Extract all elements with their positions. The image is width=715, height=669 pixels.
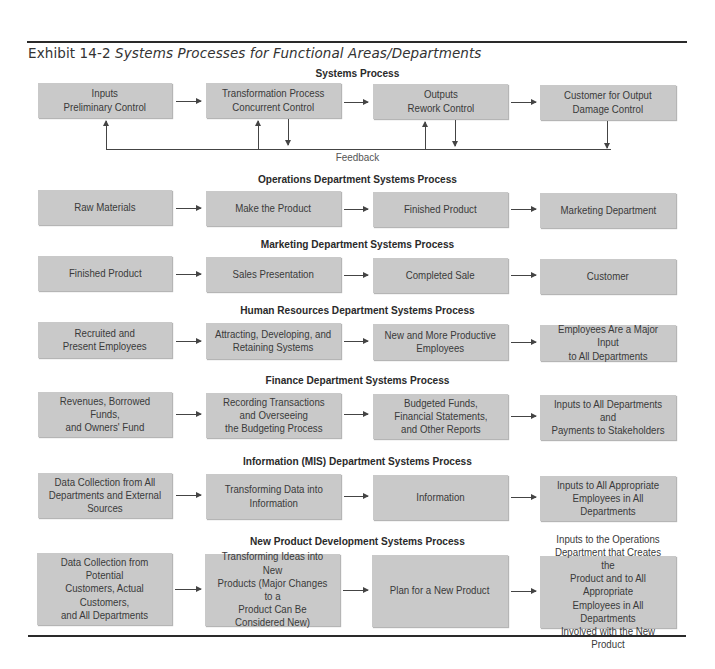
box-label: Inputs to All Appropriate Employees in A… xyxy=(548,479,668,519)
box-sales-presentation: Sales Presentation xyxy=(206,257,341,292)
feedback-arrow-down-transformation xyxy=(288,119,289,145)
box-label: Finished Product xyxy=(69,267,142,280)
flow-arrow xyxy=(511,591,536,592)
feedback-arrow-down-outputs xyxy=(455,120,456,146)
flow-arrow xyxy=(343,590,368,591)
box-label: Raw Materials xyxy=(74,201,135,214)
flow-arrow xyxy=(344,275,368,276)
box-employees-major-input: Employees Are a Major Input to All Depar… xyxy=(540,325,676,361)
box-label: Information xyxy=(416,491,464,504)
bottom-rule xyxy=(28,635,686,637)
section-title-systems-process: Systems Process xyxy=(43,67,672,79)
flow-arrow xyxy=(344,102,368,103)
box-label: Sales Presentation xyxy=(233,268,314,281)
flow-arrow xyxy=(176,341,201,342)
feedback-arrow-up-outputs xyxy=(425,122,426,149)
box-label: Inputs Preliminary Control xyxy=(64,87,146,113)
exhibit-caption: Systems Processes for Functional Areas/D… xyxy=(115,45,482,61)
box-completed-sale: Completed Sale xyxy=(373,258,508,293)
box-marketing-department: Marketing Department xyxy=(540,193,676,228)
box-transformation: Transformation Process Concurrent Contro… xyxy=(206,83,341,118)
feedback-arrow-up-inputs xyxy=(106,121,107,149)
flow-arrow xyxy=(511,497,536,498)
feedback-line xyxy=(106,149,611,150)
box-label: Recruited and Present Employees xyxy=(63,327,147,353)
flow-arrow xyxy=(176,495,201,496)
box-make-product: Make the Product xyxy=(206,191,341,226)
flow-arrow xyxy=(511,209,536,210)
box-label: Inputs to the Operations Department that… xyxy=(548,533,668,652)
exhibit-number: Exhibit 14-2 xyxy=(28,45,111,61)
box-customer-output: Customer for Output Damage Control xyxy=(540,85,676,120)
section-title-marketing: Marketing Department Systems Process xyxy=(43,238,672,250)
box-label: Marketing Department xyxy=(560,204,656,217)
box-information: Information xyxy=(373,475,508,520)
box-label: Recording Transactions and Overseeing th… xyxy=(223,396,325,436)
box-label: Employees Are a Major Input to All Depar… xyxy=(548,323,668,363)
box-productive-employees: New and More Productive Employees xyxy=(373,324,508,360)
feedback-arrow-up-transformation xyxy=(258,121,259,149)
box-recording-transactions: Recording Transactions and Overseeing th… xyxy=(206,393,341,438)
flow-arrow xyxy=(344,496,368,497)
box-label: Completed Sale xyxy=(406,269,475,282)
box-label: Finished Product xyxy=(404,203,477,216)
box-label: Revenues, Borrowed Funds, and Owners' Fu… xyxy=(46,395,164,435)
box-outputs: Outputs Rework Control xyxy=(373,84,508,119)
box-label: Plan for a New Product xyxy=(390,584,490,597)
box-inputs-appropriate-employees: Inputs to All Appropriate Employees in A… xyxy=(540,476,676,521)
box-label: Customer for Output Damage Control xyxy=(564,89,652,115)
box-finished-product-input: Finished Product xyxy=(38,256,172,291)
box-transforming-ideas: Transforming Ideas into New Products (Ma… xyxy=(205,554,340,626)
section-title-finance: Finance Department Systems Process xyxy=(43,374,672,386)
box-inputs: Inputs Preliminary Control xyxy=(38,83,172,118)
flow-arrow xyxy=(176,101,201,102)
box-label: Make the Product xyxy=(236,202,312,215)
box-data-collection-all: Data Collection from All Departments and… xyxy=(38,473,172,518)
flow-arrow xyxy=(176,274,201,275)
flow-arrow xyxy=(511,275,536,276)
box-inputs-payments: Inputs to All Departments and Payments t… xyxy=(540,395,676,440)
box-label: Data Collection from Potential Customers… xyxy=(45,556,164,622)
box-recruited-employees: Recruited and Present Employees xyxy=(38,322,172,358)
box-label: Outputs Rework Control xyxy=(407,88,474,114)
flow-arrow xyxy=(344,414,368,415)
section-title-information-mis: Information (MIS) Department Systems Pro… xyxy=(43,455,672,467)
flow-arrow xyxy=(511,102,536,103)
flow-arrow xyxy=(511,342,536,343)
flow-arrow xyxy=(176,208,201,209)
box-attracting-developing: Attracting, Developing, and Retaining Sy… xyxy=(206,323,341,359)
exhibit-title: Exhibit 14-2 Systems Processes for Funct… xyxy=(28,45,481,61)
box-revenues-funds: Revenues, Borrowed Funds, and Owners' Fu… xyxy=(38,392,172,437)
box-finished-product: Finished Product xyxy=(373,192,508,227)
box-plan-new-product: Plan for a New Product xyxy=(372,555,508,627)
box-label: Transformation Process Concurrent Contro… xyxy=(222,87,324,113)
section-title-human-resources: Human Resources Department Systems Proce… xyxy=(43,304,672,316)
flow-arrow xyxy=(511,416,536,417)
section-title-operations: Operations Department Systems Process xyxy=(43,173,672,185)
box-raw-materials: Raw Materials xyxy=(38,190,172,225)
flow-arrow xyxy=(176,414,201,415)
box-label: Inputs to All Departments and Payments t… xyxy=(548,398,668,438)
box-customer: Customer xyxy=(540,259,676,294)
box-label: Customer xyxy=(587,270,629,283)
box-label: Transforming Data into Information xyxy=(224,483,322,509)
feedback-label: Feedback xyxy=(36,151,680,163)
box-inputs-operations: Inputs to the Operations Department that… xyxy=(540,556,676,628)
flow-arrow xyxy=(175,589,201,590)
flow-arrow xyxy=(344,341,368,342)
box-budgeted-funds: Budgeted Funds, Financial Statements, an… xyxy=(373,394,508,439)
box-data-collection-customers: Data Collection from Potential Customers… xyxy=(37,553,172,625)
box-transforming-data: Transforming Data into Information xyxy=(206,474,341,519)
feedback-arrow-down-customer xyxy=(607,121,608,148)
box-label: Transforming Ideas into New Products (Ma… xyxy=(213,550,332,629)
top-rule xyxy=(27,41,687,43)
box-label: New and More Productive Employees xyxy=(385,329,496,355)
box-label: Attracting, Developing, and Retaining Sy… xyxy=(215,328,331,354)
box-label: Data Collection from All Departments and… xyxy=(49,476,161,516)
box-label: Budgeted Funds, Financial Statements, an… xyxy=(394,397,487,437)
flow-arrow xyxy=(344,209,368,210)
